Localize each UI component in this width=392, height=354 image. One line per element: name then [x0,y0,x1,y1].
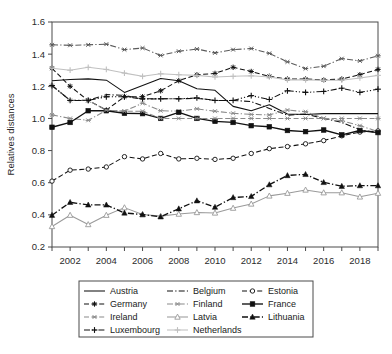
marker-circle [158,151,162,155]
y-tick-label: 1.6 [32,16,45,27]
line-chart: 0.20.40.60.81.01.21.41.62002200420062008… [0,0,392,354]
marker-square [250,302,255,307]
legend-label: Belgium [193,286,226,296]
x-tick-label: 2016 [313,255,334,266]
legend-label: Netherlands [193,325,242,335]
x-tick-label: 2010 [204,255,225,266]
y-tick-label: 1.0 [32,113,45,124]
marker-square [86,108,91,113]
y-tick-label: 0.4 [32,209,45,220]
marker-triangle [375,190,380,195]
y-tick-label: 1.4 [32,49,45,60]
x-tick-label: 2006 [132,255,153,266]
marker-triangle [86,222,91,227]
marker-square [68,120,73,125]
marker-triangle [194,198,199,203]
x-tick-label: 2004 [96,255,117,266]
marker-triangle [249,193,254,198]
legend-label: Ireland [110,312,138,322]
marker-triangle [122,210,127,215]
marker-square [231,120,236,125]
series-line [52,44,378,68]
marker-square [303,129,308,134]
marker-triangle [176,206,181,211]
series-austria [52,79,378,115]
marker-square [249,123,254,128]
marker-circle [213,157,217,161]
marker-circle [231,156,235,160]
series-luxembourg [49,83,381,104]
chart-figure: 0.20.40.60.81.01.21.41.62002200420062008… [0,0,392,354]
y-tick-label: 0.8 [32,145,45,156]
marker-circle [249,151,253,155]
legend-label: France [268,299,296,309]
x-tick-label: 2012 [241,255,262,266]
y-tick-label: 0.2 [32,241,45,252]
series-line [52,131,378,181]
marker-square [267,124,272,129]
series-estoniatop [49,42,380,70]
y-axis-title: Relatives distances [5,93,16,175]
chart-series-layer [49,42,381,228]
legend-label: Estonia [268,286,298,296]
marker-triangle [67,212,72,217]
marker-circle [195,156,199,160]
legend-label: Finland [193,299,223,309]
marker-circle [177,157,181,161]
marker-circle [104,165,108,169]
series-line [52,85,378,132]
marker-square [358,128,363,133]
marker-circle [285,144,289,148]
x-tick-label: 2008 [168,255,189,266]
y-tick-label: 0.6 [32,177,45,188]
marker-circle [250,289,254,293]
y-tick-label: 1.2 [32,81,45,92]
marker-triangle [303,187,308,192]
marker-triangle [285,173,290,178]
marker-circle [267,146,271,150]
marker-triangle [122,205,127,210]
marker-square [376,130,381,135]
marker-circle [68,168,72,172]
series-belgium [52,85,378,132]
marker-square [321,128,326,133]
legend-label: Lithuania [268,312,305,322]
legend-label: Luxembourg [110,325,160,335]
marker-triangle [104,202,109,207]
marker-circle [140,157,144,161]
legend-label: Austria [110,286,138,296]
marker-square [285,128,290,133]
marker-circle [50,179,54,183]
series-france [50,108,381,137]
marker-square [176,110,181,115]
marker-circle [86,167,90,171]
x-tick-label: 2018 [349,255,370,266]
marker-square [50,125,55,130]
legend-label: Latvia [193,312,217,322]
x-tick-label: 2002 [60,255,81,266]
series-germany [49,65,380,113]
series-estonia [50,129,380,184]
marker-circle [321,138,325,142]
marker-triangle [321,179,326,184]
marker-square [339,133,344,138]
series-line [52,79,378,115]
legend-label: Germany [110,299,148,309]
x-tick-label: 2014 [277,255,298,266]
marker-circle [122,154,126,158]
marker-circle [303,142,307,146]
chart-legend: AustriaBelgiumEstoniaGermanyFinlandFranc… [79,281,313,337]
marker-triangle [49,224,54,229]
